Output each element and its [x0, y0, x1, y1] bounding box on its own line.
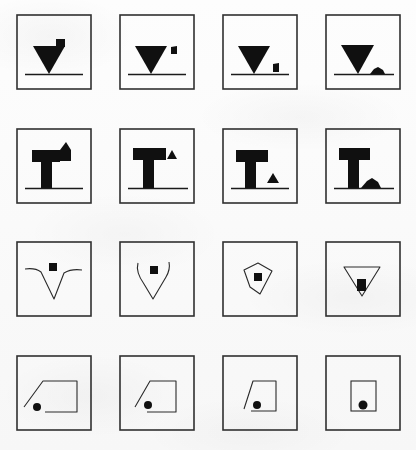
frame-cell-r1c1[interactable]: [16, 14, 92, 90]
frame-cell-r4c3[interactable]: [222, 355, 298, 431]
frame-cell-r4c1[interactable]: [16, 355, 92, 431]
filled-t-shape: [133, 148, 166, 188]
falling-fragment: [273, 63, 279, 72]
frame-cell-r4c4[interactable]: [325, 355, 401, 431]
frame-cell-r2c2[interactable]: [119, 128, 195, 204]
marker-dot: [33, 403, 41, 411]
marker-square: [49, 263, 57, 271]
filled-triangle-shape: [238, 46, 270, 74]
detached-fragment: [167, 150, 177, 159]
marker-square: [254, 273, 262, 281]
frame-cell-r3c2[interactable]: [119, 241, 195, 317]
filled-t-shape: [32, 142, 71, 188]
frame-cell-r3c3[interactable]: [222, 241, 298, 317]
frame-cell-r3c4[interactable]: [325, 241, 401, 317]
filled-triangle-shape: [341, 45, 374, 74]
frame-cell-r2c3[interactable]: [222, 128, 298, 204]
open-v-outline: [25, 269, 82, 299]
filled-triangle-shape: [135, 46, 167, 74]
filled-t-shape: [339, 148, 370, 188]
filled-triangle-shape: [33, 39, 65, 74]
marker-dot: [253, 401, 261, 409]
frame-cell-r4c2[interactable]: [119, 355, 195, 431]
settled-debris-pile: [361, 178, 381, 188]
frame-cell-r1c3[interactable]: [222, 14, 298, 90]
marker-dot: [359, 401, 368, 410]
frame-cell-r1c2[interactable]: [119, 14, 195, 90]
falling-fragment: [267, 173, 279, 183]
marker-dot: [144, 401, 152, 409]
frame-cell-r3c1[interactable]: [16, 241, 92, 317]
detached-fragment: [171, 46, 177, 54]
frame-cell-r1c4[interactable]: [325, 14, 401, 90]
marker-square: [357, 279, 366, 291]
filled-t-shape: [236, 150, 268, 188]
frame-cell-r2c1[interactable]: [16, 128, 92, 204]
settled-debris-pile: [370, 67, 385, 74]
open-quad-outline: [24, 381, 77, 412]
open-quad-outline: [135, 381, 176, 412]
frame-cell-r2c4[interactable]: [325, 128, 401, 204]
marker-square: [150, 266, 158, 274]
simulation-frame-grid: [0, 0, 416, 450]
